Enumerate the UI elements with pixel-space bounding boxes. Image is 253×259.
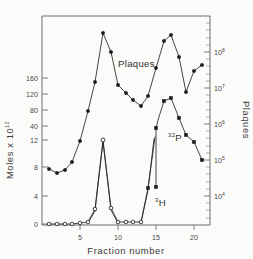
left-tick-8: 8: [34, 163, 38, 172]
annotation-3h: 3H: [155, 197, 166, 208]
left-axis-ticklabels: 160 120 80 40 12 8 4 0: [26, 74, 38, 229]
right-tick-1e5: 105: [214, 155, 225, 166]
series-plaques: [47, 31, 203, 174]
left-tick-12: 12: [30, 136, 38, 145]
annotation-plaques: Plaques: [118, 58, 155, 69]
annotation-3h-base: H: [159, 197, 166, 208]
annotation-32p: 32P: [168, 132, 182, 143]
right-tick-1e6-mantissa: 10: [214, 120, 222, 129]
plaques-markers: [47, 31, 203, 174]
left-tick-160: 160: [26, 74, 38, 83]
x-axis-ticklabels: 5 10 15 20: [78, 233, 198, 242]
x-tick-15: 15: [152, 233, 160, 242]
svg-text:Moles x 1012: Moles x 1012: [4, 121, 15, 179]
right-tick-1e6: 106: [214, 119, 225, 130]
right-tick-1e4: 104: [214, 191, 225, 202]
left-axis-ticks: [42, 78, 48, 224]
right-tick-1e4-exponent: 4: [222, 191, 225, 197]
left-tick-40: 40: [30, 122, 38, 131]
x-axis-title: Fraction number: [87, 245, 164, 256]
right-tick-1e8: 108: [214, 47, 225, 58]
right-tick-1e6-exponent: 6: [222, 119, 225, 125]
right-tick-1e7-exponent: 7: [222, 83, 225, 89]
left-tick-80: 80: [30, 106, 38, 115]
right-tick-1e4-mantissa: 10: [214, 192, 222, 201]
x-axis-ticks: [80, 225, 194, 230]
annotation-32p-base: P: [175, 132, 182, 143]
left-tick-4: 4: [34, 192, 38, 201]
x-tick-20: 20: [190, 233, 198, 242]
plaques-line: [49, 33, 202, 173]
right-tick-1e8-mantissa: 10: [214, 48, 222, 57]
right-tick-1e8-exponent: 8: [222, 47, 225, 53]
x-tick-10: 10: [114, 233, 122, 242]
right-tick-1e5-mantissa: 10: [214, 156, 222, 165]
left-axis-title: Moles x 1012: [4, 121, 15, 179]
x-tick-5: 5: [78, 233, 82, 242]
right-tick-1e5-exponent: 5: [222, 155, 225, 161]
right-axis-title: Plaques: [241, 101, 252, 139]
plot-frame: [42, 16, 210, 225]
left-tick-0: 0: [34, 220, 38, 229]
left-tick-120: 120: [26, 90, 38, 99]
right-tick-1e7-mantissa: 10: [214, 84, 222, 93]
right-axis-ticks: [204, 23, 210, 218]
left-axis-title-text: Moles x 10: [4, 128, 15, 179]
right-tick-1e7: 107: [214, 83, 225, 94]
right-axis-ticklabels: 108 107 106 105 104: [214, 47, 225, 202]
chart-canvas: 160 120 80 40 12 8 4 0 Moles x 1012: [0, 0, 253, 259]
figure-container: 160 120 80 40 12 8 4 0 Moles x 1012: [0, 0, 253, 259]
left-axis-title-exponent: 12: [4, 121, 10, 128]
series-3h: [47, 137, 155, 226]
right-axis-title-text: Plaques: [241, 101, 252, 139]
